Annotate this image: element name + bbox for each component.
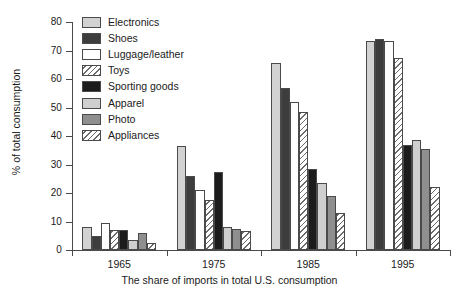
legend-swatch-icon <box>82 65 101 76</box>
bar-apparel-1995 <box>412 140 421 250</box>
legend-swatch-icon <box>82 33 101 44</box>
bar-luggage-leather-1985 <box>290 102 299 250</box>
bar-photo-1995 <box>421 149 430 250</box>
bar-sporting-goods-1995 <box>403 145 412 250</box>
bar-luggage-leather-1975 <box>195 190 204 250</box>
bar-group <box>271 22 345 250</box>
bar-sporting-goods-1985 <box>308 169 317 250</box>
y-axis-label: % of total consumption <box>10 12 22 232</box>
legend-item-label: Electronics <box>108 17 159 28</box>
legend-item: Electronics <box>82 14 184 30</box>
legend: ElectronicsShoesLuggage/leatherToysSport… <box>82 14 184 144</box>
legend-swatch-icon <box>82 17 101 28</box>
legend-item-label: Shoes <box>108 33 138 44</box>
bar-sporting-goods-1965 <box>119 230 128 250</box>
legend-item-label: Toys <box>108 65 130 76</box>
legend-swatch-icon <box>82 49 101 60</box>
bar-appliances-1965 <box>147 243 156 250</box>
legend-item-label: Sporting goods <box>108 81 179 92</box>
bar-apparel-1985 <box>317 183 326 250</box>
bar-photo-1975 <box>232 229 241 250</box>
bar-shoes-1975 <box>186 176 195 250</box>
bar-electronics-1985 <box>271 63 280 250</box>
bar-appliances-1995 <box>430 187 439 250</box>
bar-electronics-1975 <box>177 146 186 250</box>
x-axis-label: The share of imports in total U.S. consu… <box>0 274 459 286</box>
bar-photo-1985 <box>327 196 336 250</box>
x-axis-tick-label: 1965 <box>89 258 149 270</box>
legend-item: Shoes <box>82 30 184 46</box>
legend-item-label: Appliances <box>108 130 159 141</box>
x-axis-tick <box>167 251 168 256</box>
legend-item-label: Photo <box>108 114 135 125</box>
x-axis-tick <box>72 251 73 256</box>
bar-apparel-1965 <box>128 240 137 250</box>
bar-luggage-leather-1965 <box>101 223 110 250</box>
x-axis-tick-label: 1985 <box>278 258 338 270</box>
x-axis-tick <box>261 251 262 256</box>
bar-apparel-1975 <box>223 227 232 250</box>
x-axis-tick <box>356 251 357 256</box>
y-axis-tick-label: 30 <box>38 160 62 170</box>
bar-toys-1975 <box>205 200 214 250</box>
bar-toys-1985 <box>299 112 308 250</box>
bar-electronics-1965 <box>82 227 91 250</box>
y-axis-tick-label: 20 <box>38 188 62 198</box>
x-axis-tick <box>450 251 451 256</box>
bar-photo-1965 <box>138 233 147 250</box>
legend-item-label: Luggage/leather <box>108 49 184 60</box>
y-axis-tick-label: 40 <box>38 131 62 141</box>
bar-toys-1965 <box>110 230 119 250</box>
legend-swatch-icon <box>82 114 101 125</box>
bar-appliances-1985 <box>336 213 345 250</box>
bar-sporting-goods-1975 <box>214 172 223 250</box>
bar-group <box>366 22 440 250</box>
legend-item: Apparel <box>82 95 184 111</box>
legend-item: Luggage/leather <box>82 46 184 62</box>
y-axis-tick-label: 50 <box>38 103 62 113</box>
legend-item: Appliances <box>82 127 184 143</box>
legend-swatch-icon <box>82 130 101 141</box>
bar-appliances-1975 <box>241 231 250 250</box>
y-axis-tick-label: 10 <box>38 217 62 227</box>
bar-chart: 01020304050607080 % of total consumption… <box>0 0 459 294</box>
x-axis-tick-label: 1995 <box>373 258 433 270</box>
bar-shoes-1985 <box>281 88 290 250</box>
legend-swatch-icon <box>82 98 101 109</box>
y-axis-tick-label: 0 <box>38 245 62 255</box>
y-axis-tick-label: 80 <box>38 17 62 27</box>
bar-group <box>177 22 251 250</box>
bar-luggage-leather-1995 <box>384 41 393 250</box>
bar-electronics-1995 <box>366 41 375 250</box>
legend-item: Photo <box>82 111 184 127</box>
y-axis-tick-label: 60 <box>38 74 62 84</box>
legend-item: Sporting goods <box>82 79 184 95</box>
y-axis-tick-label: 70 <box>38 46 62 56</box>
x-axis-tick-label: 1975 <box>184 258 244 270</box>
bar-shoes-1965 <box>92 236 101 250</box>
legend-item-label: Apparel <box>108 98 144 109</box>
legend-swatch-icon <box>82 81 101 92</box>
bar-shoes-1995 <box>375 39 384 250</box>
bar-toys-1995 <box>394 58 403 250</box>
legend-item: Toys <box>82 63 184 79</box>
